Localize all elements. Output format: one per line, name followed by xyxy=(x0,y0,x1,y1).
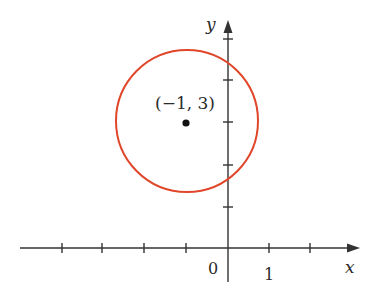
x-axis-label: x xyxy=(345,257,355,277)
center-point xyxy=(182,119,189,126)
center-label: (−1, 3) xyxy=(155,93,215,113)
y-axis-label: y xyxy=(205,14,216,34)
x-axis-arrow-icon xyxy=(347,244,360,253)
origin-label: 0 xyxy=(208,259,218,278)
diagram-canvas: (−1, 3) y x 0 1 xyxy=(0,0,377,306)
x-unit-label: 1 xyxy=(264,265,274,284)
x-axis xyxy=(20,243,360,253)
y-axis xyxy=(223,20,233,282)
y-axis-arrow-icon xyxy=(224,20,233,33)
